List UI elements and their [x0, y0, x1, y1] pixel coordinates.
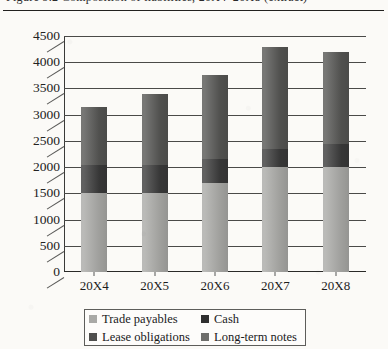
legend-item[interactable]: Cash [201, 312, 311, 327]
bar-segment[interactable] [142, 193, 168, 272]
bar-segment[interactable] [202, 75, 228, 159]
bar-column[interactable] [81, 107, 107, 272]
x-axis-tick-mark [94, 272, 95, 276]
x-axis-tick-label: 20X7 [261, 278, 290, 294]
x-axis-tick-label: 20X8 [321, 278, 350, 294]
bar-column[interactable] [142, 94, 168, 272]
bar-segment[interactable] [142, 94, 168, 165]
y-axis-tick-label: 2500 [33, 134, 60, 148]
legend-label: Lease obligations [102, 330, 190, 345]
y-axis-tick-label: 4000 [33, 55, 60, 69]
legend-item[interactable]: Trade payables [89, 312, 201, 327]
legend-label: Trade payables [102, 312, 178, 327]
legend-swatch-icon [201, 333, 209, 341]
y-axis-tick-label: 2000 [33, 160, 60, 174]
y-axis-tick-label: 3500 [33, 82, 60, 96]
bar-segment[interactable] [262, 47, 288, 149]
header-rule [3, 10, 384, 11]
bar-segment[interactable] [142, 165, 168, 194]
y-axis-tick-label: 3000 [33, 108, 60, 122]
y-axis-tick-label: 500 [40, 239, 60, 253]
chart-legend: Trade payablesCashLease obligationsLong-… [84, 309, 306, 346]
bar-segment[interactable] [323, 144, 349, 168]
bar-segment[interactable] [202, 183, 228, 272]
legend-swatch-icon [201, 315, 209, 323]
chart-plot-area: 05001000150020002500300035004000450020X4… [64, 36, 366, 272]
bar-segment[interactable] [262, 167, 288, 272]
legend-swatch-icon [89, 315, 97, 323]
y-axis-tick-label: 4500 [33, 29, 60, 43]
bar-column[interactable] [323, 52, 349, 272]
legend-label: Long-term notes [214, 330, 297, 345]
bar-segment[interactable] [262, 149, 288, 167]
y-axis-tick-label: 0 [53, 265, 60, 279]
bar-segment[interactable] [81, 165, 107, 194]
figure-caption-text: Figure 9.2 Composition of liabilities, 2… [6, 0, 307, 5]
bar-column[interactable] [202, 75, 228, 272]
x-axis-tick-label: 20X5 [140, 278, 169, 294]
clipped-figure-caption: Figure 9.2 Composition of liabilities, 2… [0, 0, 388, 9]
bar-segment[interactable] [202, 159, 228, 183]
y-axis-line [64, 36, 65, 272]
bar-column[interactable] [262, 47, 288, 272]
x-axis-tick-mark [335, 272, 336, 276]
x-axis-tick-label: 20X6 [201, 278, 230, 294]
bar-segment[interactable] [323, 52, 349, 144]
x-axis-tick-mark [215, 272, 216, 276]
legend-label: Cash [214, 312, 239, 327]
legend-item[interactable]: Lease obligations [89, 330, 201, 345]
x-axis-tick-label: 20X4 [80, 278, 109, 294]
x-axis-tick-mark [154, 272, 155, 276]
y-axis-tick-label: 1000 [33, 213, 60, 227]
x-axis-tick-mark [275, 272, 276, 276]
y-axis-tick-label: 1500 [33, 187, 60, 201]
gridline [64, 62, 366, 63]
legend-swatch-icon [89, 333, 97, 341]
legend-item[interactable]: Long-term notes [201, 330, 311, 345]
bar-segment[interactable] [81, 107, 107, 165]
gridline [64, 36, 366, 37]
bar-segment[interactable] [323, 167, 349, 272]
bar-segment[interactable] [81, 193, 107, 272]
